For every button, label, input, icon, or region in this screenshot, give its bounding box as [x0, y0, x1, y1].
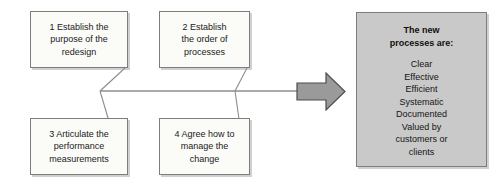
step-box-1-label: 1 Establish the purpose of the redesign: [43, 21, 114, 59]
outcome-list: Clear Effective Efficient Systematic Doc…: [395, 58, 447, 158]
list-item: Efficient: [395, 83, 447, 96]
step-box-3-label: 3 Articulate the performance measurement…: [43, 128, 115, 166]
connector-step-1: [100, 68, 125, 91]
list-item: Documented: [395, 108, 447, 121]
step-box-2-label: 2 Establish the order of processes: [175, 21, 233, 59]
list-item: Valued by customers or clients: [395, 121, 447, 159]
right-arrow-icon: [296, 72, 346, 111]
fishbone-diagram: 1 Establish the purpose of the redesign …: [0, 0, 500, 186]
list-item: Effective: [395, 71, 447, 84]
step-box-4[interactable]: 4 Agree how to manage the change: [159, 118, 250, 175]
outcome-heading: The new processes are:: [390, 24, 454, 49]
step-box-3[interactable]: 3 Articulate the performance measurement…: [30, 118, 128, 175]
list-item: Systematic: [395, 96, 447, 109]
step-box-2[interactable]: 2 Establish the order of processes: [159, 11, 250, 68]
connector-step-2: [235, 68, 247, 91]
list-item: Clear: [395, 58, 447, 71]
step-box-4-label: 4 Agree how to manage the change: [168, 128, 240, 166]
outcome-box[interactable]: The new processes are: Clear Effective E…: [356, 12, 487, 167]
step-box-1[interactable]: 1 Establish the purpose of the redesign: [30, 11, 128, 68]
